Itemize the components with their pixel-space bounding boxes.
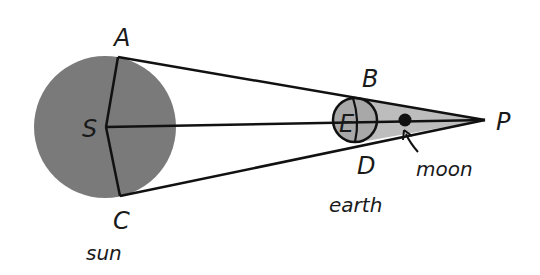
label-e: E <box>339 110 355 138</box>
caption-sun: sun <box>86 241 122 265</box>
moon-dot <box>399 114 412 127</box>
label-b: B <box>362 65 378 93</box>
sun-earth-moon-diagram: A S C B E D P sun earth moon <box>0 0 540 275</box>
label-p: P <box>496 108 511 136</box>
label-c: C <box>113 207 130 235</box>
label-d: D <box>357 152 375 180</box>
label-a: A <box>112 24 130 52</box>
caption-moon: moon <box>416 157 473 181</box>
label-s: S <box>82 115 97 143</box>
moon-arrow-icon <box>406 134 418 152</box>
caption-earth: earth <box>329 193 382 217</box>
